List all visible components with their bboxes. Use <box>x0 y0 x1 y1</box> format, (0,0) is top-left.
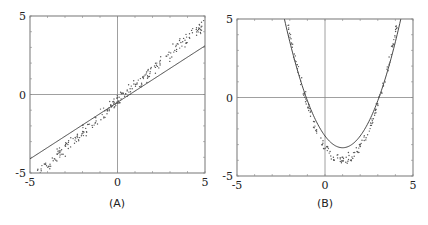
y-tick-label: -5 <box>222 170 233 183</box>
data-points <box>287 24 397 164</box>
x-tick-label: 5 <box>202 176 209 189</box>
caption-b: (B) <box>317 197 333 210</box>
y-tick-label: -5 <box>15 167 26 180</box>
y-tick-label: 5 <box>19 10 26 23</box>
chart-figure: -50550-5 -50550-5 (A) (B) <box>0 0 428 225</box>
x-tick-label: 0 <box>322 179 329 192</box>
caption-a: (A) <box>109 197 125 210</box>
panel-a: -50550-5 <box>15 10 208 189</box>
y-tick-label: 0 <box>226 92 233 105</box>
y-tick-label: 0 <box>19 89 26 102</box>
data-points <box>36 20 204 177</box>
panel-b: -50550-5 <box>222 0 416 192</box>
x-tick-label: 5 <box>410 179 417 192</box>
x-tick-label: -5 <box>25 176 36 189</box>
x-tick-label: 0 <box>114 176 121 189</box>
x-tick-label: -5 <box>232 179 243 192</box>
y-tick-label: 5 <box>226 13 233 26</box>
